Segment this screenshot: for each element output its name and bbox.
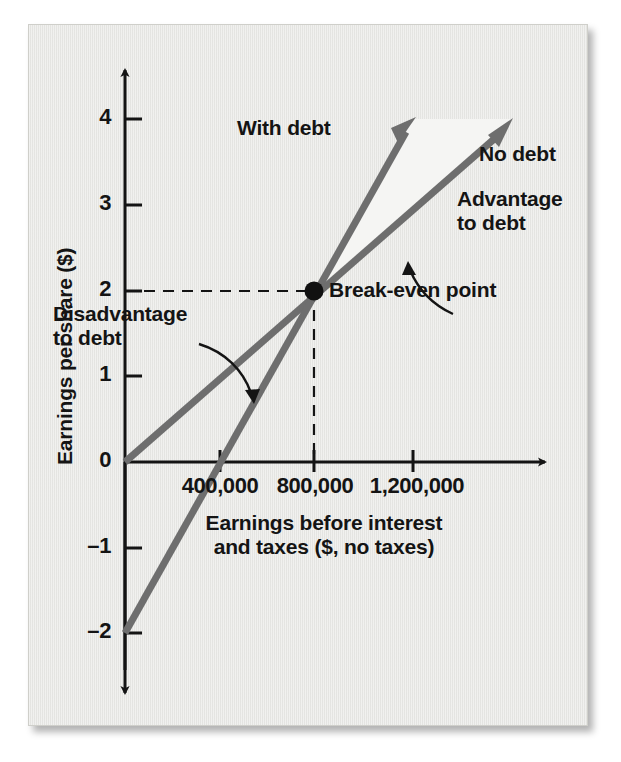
annotation-break-even-point: Break-even point — [329, 278, 496, 302]
x-axis-title: Earnings before interest and taxes ($, n… — [179, 511, 469, 560]
annotation-disadvantage-to-debt: Disadvantage to debt — [53, 302, 187, 349]
figure-root: 4 3 2 1 0 –1 –2 400,000 800,000 1,200,00… — [0, 0, 621, 762]
y-tick-label-4: 4 — [73, 104, 111, 130]
y-tick-label-2: 2 — [73, 276, 111, 302]
x-tick-label-1200000: 1,200,000 — [339, 473, 495, 499]
annotation-no-debt: No debt — [479, 142, 556, 166]
y-tick-label-0: 0 — [73, 447, 111, 473]
y-tick-label-minus-2: –2 — [59, 618, 111, 644]
advantage-leader-arrowhead — [402, 261, 416, 275]
y-axis-ticks — [125, 119, 142, 633]
y-tick-label-minus-1: –1 — [59, 533, 111, 559]
annotation-advantage-to-debt: Advantage to debt — [457, 187, 563, 234]
annotation-with-debt: With debt — [237, 116, 331, 140]
chart-panel: 4 3 2 1 0 –1 –2 400,000 800,000 1,200,00… — [28, 24, 588, 726]
y-axis-title: Earnings per share ($) — [53, 248, 77, 465]
y-tick-label-3: 3 — [73, 190, 111, 216]
y-tick-label-1: 1 — [73, 361, 111, 387]
disadvantage-leader-arrow — [199, 344, 251, 393]
breakeven-point-marker — [305, 282, 324, 301]
